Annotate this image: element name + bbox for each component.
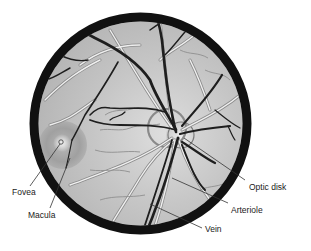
fovea-label: Fovea (12, 188, 36, 197)
fovea-glow (53, 134, 71, 152)
arteriole-label: Arteriole (231, 206, 263, 215)
macula-label: Macula (28, 211, 55, 220)
optic-disk-label: Optic disk (249, 183, 286, 192)
vein-label: Vein (205, 225, 222, 234)
